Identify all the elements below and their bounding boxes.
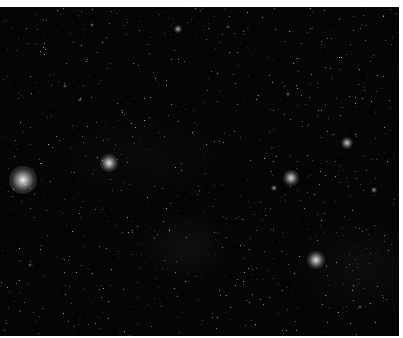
faint-star bbox=[283, 237, 284, 238]
faint-star bbox=[90, 142, 91, 143]
star-field-photo bbox=[0, 7, 399, 336]
faint-star bbox=[64, 272, 65, 273]
faint-star bbox=[57, 10, 58, 11]
faint-star bbox=[72, 221, 73, 222]
faint-star bbox=[263, 304, 264, 305]
faint-star bbox=[128, 103, 129, 104]
faint-star bbox=[47, 235, 48, 236]
faint-star bbox=[385, 40, 386, 41]
faint-star bbox=[12, 92, 13, 93]
faint-star bbox=[19, 311, 20, 312]
faint-star bbox=[298, 71, 299, 72]
faint-star bbox=[222, 184, 223, 185]
faint-star bbox=[129, 335, 130, 336]
faint-star bbox=[255, 198, 256, 199]
faint-star bbox=[382, 39, 383, 40]
faint-star bbox=[43, 35, 44, 36]
faint-star bbox=[252, 55, 253, 56]
faint-star bbox=[259, 140, 260, 141]
faint-star bbox=[232, 92, 233, 93]
faint-star bbox=[352, 290, 353, 291]
bright-star bbox=[358, 305, 362, 309]
faint-star bbox=[243, 112, 244, 113]
faint-star bbox=[21, 241, 22, 242]
faint-star bbox=[147, 44, 148, 45]
faint-star bbox=[330, 258, 331, 259]
faint-star bbox=[261, 63, 262, 64]
faint-star bbox=[240, 224, 241, 225]
faint-star bbox=[193, 134, 194, 135]
faint-star bbox=[66, 128, 67, 129]
faint-star bbox=[29, 137, 30, 138]
faint-star bbox=[317, 83, 318, 84]
faint-star bbox=[284, 86, 285, 87]
faint-star bbox=[57, 30, 58, 31]
faint-star bbox=[174, 258, 175, 259]
faint-star bbox=[300, 200, 301, 201]
faint-star bbox=[123, 149, 124, 150]
faint-star bbox=[339, 249, 340, 250]
faint-star bbox=[41, 163, 42, 164]
faint-star bbox=[70, 116, 71, 117]
faint-star bbox=[343, 284, 344, 285]
faint-star bbox=[108, 221, 109, 222]
faint-star bbox=[350, 87, 351, 88]
faint-star bbox=[260, 299, 261, 300]
faint-star bbox=[208, 255, 209, 256]
faint-star bbox=[225, 275, 226, 276]
faint-star bbox=[278, 284, 279, 285]
faint-star bbox=[353, 12, 354, 13]
faint-star bbox=[1, 137, 2, 138]
faint-star bbox=[372, 204, 373, 205]
faint-star bbox=[145, 262, 146, 263]
faint-star bbox=[321, 137, 322, 138]
faint-star bbox=[84, 29, 85, 30]
faint-star bbox=[336, 98, 337, 99]
faint-star bbox=[35, 43, 36, 44]
faint-star bbox=[347, 153, 348, 154]
faint-star bbox=[166, 80, 167, 81]
faint-star bbox=[72, 126, 73, 127]
faint-star bbox=[200, 278, 201, 279]
faint-star bbox=[247, 251, 248, 252]
faint-star bbox=[1, 210, 2, 211]
faint-star bbox=[174, 209, 175, 210]
faint-star bbox=[71, 33, 72, 34]
faint-star bbox=[234, 186, 235, 187]
faint-star bbox=[215, 254, 216, 255]
faint-star bbox=[108, 301, 109, 302]
faint-star bbox=[183, 106, 184, 107]
faint-star bbox=[126, 34, 127, 35]
faint-star bbox=[269, 297, 270, 298]
faint-star bbox=[59, 81, 60, 82]
faint-star bbox=[235, 218, 236, 219]
faint-star bbox=[316, 96, 317, 97]
faint-star bbox=[328, 118, 329, 119]
faint-star bbox=[251, 220, 252, 221]
faint-star bbox=[393, 122, 394, 123]
faint-star bbox=[198, 299, 199, 300]
faint-star bbox=[65, 285, 66, 286]
faint-star bbox=[139, 138, 140, 139]
faint-star bbox=[310, 15, 311, 16]
faint-star bbox=[137, 204, 138, 205]
faint-star bbox=[149, 130, 150, 131]
faint-star bbox=[235, 83, 236, 84]
faint-star bbox=[217, 101, 218, 102]
faint-star bbox=[211, 71, 212, 72]
faint-star bbox=[317, 87, 318, 88]
faint-star bbox=[366, 248, 367, 249]
faint-star bbox=[248, 201, 249, 202]
faint-star bbox=[394, 310, 395, 311]
faint-star bbox=[7, 76, 8, 77]
faint-star bbox=[287, 309, 288, 310]
faint-star bbox=[245, 325, 246, 326]
faint-star bbox=[237, 65, 238, 66]
faint-star bbox=[20, 291, 21, 292]
faint-star bbox=[272, 13, 273, 14]
faint-star bbox=[181, 170, 182, 171]
faint-star bbox=[338, 153, 339, 154]
faint-star bbox=[115, 142, 116, 143]
faint-star bbox=[325, 39, 326, 40]
faint-star bbox=[248, 75, 249, 76]
